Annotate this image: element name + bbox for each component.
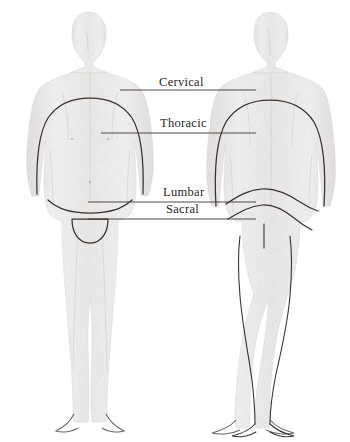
posterior-figure xyxy=(207,12,336,437)
anterior-head xyxy=(70,12,108,73)
label-lumbar: Lumbar xyxy=(160,186,207,199)
label-cervical: Cervical xyxy=(156,76,207,89)
dermatome-diagram: Cervical Thoracic Lumbar Sacral xyxy=(0,0,350,442)
label-sacral: Sacral xyxy=(163,203,202,216)
anatomy-illustration xyxy=(0,0,350,442)
posterior-head xyxy=(252,12,290,73)
anterior-figure xyxy=(27,12,154,432)
anterior-feet-outline xyxy=(56,414,124,432)
label-thoracic: Thoracic xyxy=(157,117,210,130)
